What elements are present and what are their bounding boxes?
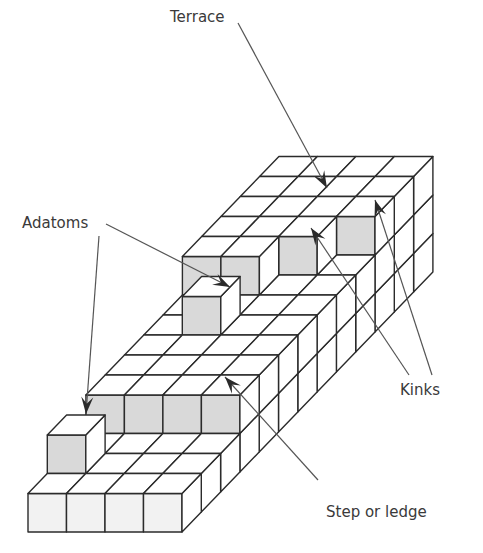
cube-front-face — [201, 395, 240, 434]
cube-front-face — [105, 494, 144, 533]
cube-front-face — [182, 297, 221, 336]
terrace-label: Terrace — [170, 8, 225, 26]
step-or-ledge-label: Step or ledge — [326, 503, 427, 521]
cube-front-face — [28, 494, 67, 533]
adatoms-label: Adatoms — [22, 214, 88, 232]
cube-front-face — [279, 237, 318, 276]
kinks-label: Kinks — [400, 381, 440, 399]
cube-front-face — [163, 395, 202, 434]
terrace-ledge-kink-diagram: Terrace Adatoms Kinks Step or ledge — [0, 0, 483, 553]
cube-front-face — [67, 494, 106, 533]
crystal-surface-illustration — [0, 0, 483, 553]
cube-front-face — [337, 217, 376, 256]
cube-front-face — [47, 435, 86, 474]
cube-front-face — [144, 494, 183, 533]
cube-front-face — [124, 395, 162, 434]
